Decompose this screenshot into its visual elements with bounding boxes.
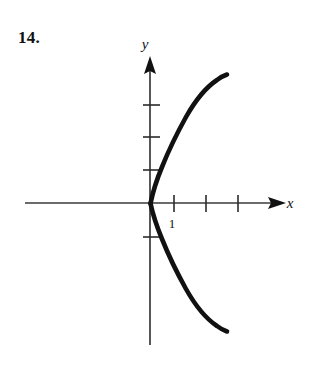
y-axis-label: y [140, 36, 149, 52]
curve-upper-branch [151, 75, 228, 204]
y-axis-ticks [143, 105, 160, 237]
x-tick-label-1: 1 [169, 216, 176, 231]
graph-canvas: 1 x y [0, 0, 313, 368]
x-axis-label: x [286, 195, 294, 211]
curve-lower-branch [151, 204, 228, 332]
figure-container: 14. 1 x y [0, 0, 313, 368]
x-axis-group [25, 197, 286, 209]
